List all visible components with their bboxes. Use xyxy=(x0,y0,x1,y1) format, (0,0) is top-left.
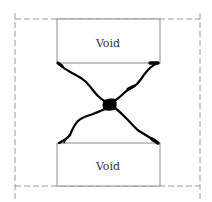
void-crack-diagram: Void Void xyxy=(0,0,212,202)
crack-top-right xyxy=(114,63,158,101)
bottom-void: Void xyxy=(57,143,160,186)
coalescence-blob xyxy=(103,99,117,111)
top-void: Void xyxy=(57,19,160,63)
crack-bottom-right-tip xyxy=(152,139,158,143)
bottom-void-label: Void xyxy=(95,160,120,173)
crack-bottom-left xyxy=(59,108,107,143)
crack-top-left xyxy=(58,63,107,103)
crack-top-right-bulge xyxy=(128,86,134,89)
top-void-label: Void xyxy=(95,37,120,50)
